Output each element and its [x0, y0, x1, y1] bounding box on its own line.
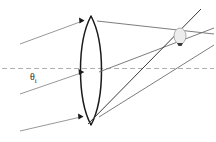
outgoing-ray-lower: [99, 45, 214, 117]
focal-spot-marker: [174, 28, 186, 46]
outgoing-ray-middle: [99, 28, 214, 72]
outgoing-ray-upper: [97, 21, 214, 34]
arrowhead-top: [79, 18, 85, 24]
incoming-ray-top: [20, 21, 84, 45]
ray-diagram-figure: θi: [0, 0, 216, 142]
biconvex-lens: [81, 16, 102, 125]
incidence-angle-subscript: i: [35, 77, 37, 85]
outgoing-rays-group: [88, 9, 214, 124]
arrowhead-bottom: [78, 114, 84, 120]
incidence-angle-label: θi: [30, 72, 37, 85]
incoming-ray-bottom: [20, 117, 83, 132]
